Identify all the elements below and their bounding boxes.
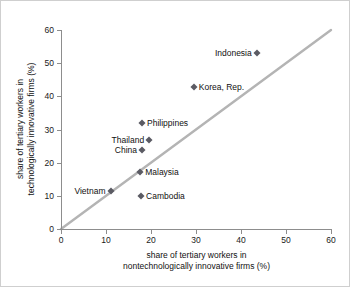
x-tick-label: 30 [191,235,200,245]
data-point-marker[interactable] [138,147,145,154]
y-tick [57,96,61,97]
data-point-label: Indonesia [215,48,252,58]
x-tick [331,230,332,234]
y-tick [57,229,61,230]
x-tick-label: 20 [146,235,155,245]
y-tick [57,196,61,197]
x-tick [151,230,152,234]
x-tick-label: 10 [101,235,110,245]
x-tick-label: 0 [59,235,64,245]
x-tick-label: 60 [326,235,335,245]
data-point-marker[interactable] [138,120,145,127]
x-tick [61,230,62,234]
data-point-label: Korea, Rep. [199,82,244,92]
data-point-marker[interactable] [190,83,197,90]
x-axis-title-line-2: nontechnologically innovative firms (%) [61,261,332,272]
data-point-marker[interactable] [138,193,145,200]
data-point-marker[interactable] [146,137,153,144]
y-tick [57,130,61,131]
reference-line [1,1,350,287]
data-point-label: Vietnam [74,186,105,196]
x-axis-title-line-1: share of tertiary workers in [61,250,332,261]
x-tick-label: 50 [281,235,290,245]
y-tick [57,63,61,64]
data-point-label: Malaysia [145,167,179,177]
x-tick-label: 40 [236,235,245,245]
x-tick [241,230,242,234]
data-point-label: Cambodia [146,191,185,201]
y-tick [57,163,61,164]
y-axis-title-line-2: technologically innovative firms (%) [26,29,37,229]
data-point-marker[interactable] [253,50,260,57]
scatter-chart: 0102030405060 0102030405060 IndonesiaKor… [0,0,350,287]
y-axis-title: share of tertiary workers in technologic… [15,29,37,229]
y-tick [57,30,61,31]
data-point-label: Philippines [147,118,188,128]
x-tick [106,230,107,234]
data-point-marker[interactable] [107,187,114,194]
y-axis-title-line-1: share of tertiary workers in [15,29,26,229]
x-axis-title: share of tertiary workers in nontechnolo… [61,250,332,272]
data-point-label: Thailand [112,135,145,145]
x-tick [196,230,197,234]
data-point-marker[interactable] [137,169,144,176]
x-tick [286,230,287,234]
plot-area: 0102030405060 0102030405060 IndonesiaKor… [1,1,350,287]
data-point-label: China [115,145,137,155]
y-axis-line [61,30,62,230]
